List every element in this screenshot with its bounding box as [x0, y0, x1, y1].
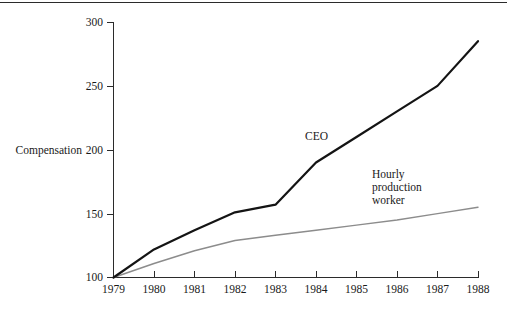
- x-tick-label-1984: 1984: [305, 283, 328, 295]
- y-tick-label-150: 150: [86, 208, 104, 220]
- annotation-hourly-line-3: worker: [372, 194, 405, 206]
- x-tick-label-1982: 1982: [224, 283, 247, 295]
- line-chart-canvas: 300 250 200 150 100 Compensation 1979 19…: [0, 0, 507, 310]
- annotation-hourly-line-1: Hourly: [372, 168, 405, 181]
- y-tick-label-250: 250: [86, 80, 104, 92]
- x-tick-label-1988: 1988: [467, 283, 490, 295]
- series-line-ceo: [114, 41, 479, 277]
- y-axis-ticks: [107, 23, 114, 278]
- y-tick-label-200: 200: [86, 144, 104, 156]
- y-tick-label-300: 300: [86, 16, 104, 28]
- y-tick-label-100: 100: [86, 271, 104, 283]
- annotation-ceo-label: CEO: [305, 130, 328, 142]
- x-tick-label-1980: 1980: [143, 283, 166, 295]
- x-tick-label-1981: 1981: [183, 283, 206, 295]
- x-tick-label-1985: 1985: [345, 283, 368, 295]
- x-tick-label-1983: 1983: [264, 283, 287, 295]
- x-tick-label-1986: 1986: [386, 283, 409, 295]
- chart-figure: 300 250 200 150 100 Compensation 1979 19…: [0, 0, 507, 310]
- x-tick-label-1987: 1987: [426, 283, 449, 295]
- x-tick-label-1979: 1979: [102, 283, 125, 295]
- annotation-hourly-line-2: production: [372, 181, 422, 194]
- x-axis-ticks: [114, 271, 479, 278]
- y-axis-title: Compensation: [16, 144, 83, 157]
